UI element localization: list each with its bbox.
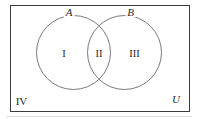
venn-diagram: A B I II III IV U [0,0,197,119]
set-b-label: B [125,6,136,17]
universal-set-label: U [172,94,180,105]
region-a-only-label: I [62,48,66,59]
scan-artifact-line [6,116,192,118]
region-intersection-label: II [96,48,103,59]
set-a-label: A [64,6,75,17]
region-outside-label: IV [16,95,28,106]
region-b-only-label: III [129,48,140,59]
